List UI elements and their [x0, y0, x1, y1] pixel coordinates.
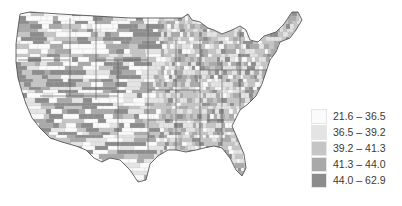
county-cell — [167, 32, 171, 37]
county-cell — [174, 10, 177, 13]
county-cell — [14, 159, 21, 163]
county-cell — [92, 24, 101, 29]
county-cell — [206, 90, 209, 93]
county-cell — [293, 135, 296, 138]
county-cell — [238, 54, 241, 57]
county-cell — [298, 154, 302, 159]
county-cell — [95, 21, 111, 24]
county-cell — [278, 32, 283, 37]
county-cell — [177, 66, 180, 70]
county-cell — [167, 16, 171, 21]
county-cell — [204, 70, 208, 75]
county-cell — [143, 119, 156, 123]
county-cell — [234, 150, 238, 154]
county-cell — [232, 180, 237, 184]
county-cell — [278, 16, 283, 21]
county-cell — [303, 175, 308, 180]
county-cell — [218, 75, 222, 79]
county-cell — [294, 128, 297, 132]
county-cell — [256, 135, 261, 138]
legend-label: 21.6 – 36.5 — [333, 110, 386, 122]
county-cell — [208, 49, 212, 54]
county-cell — [270, 10, 274, 13]
county-cell — [158, 21, 161, 24]
county-cell — [127, 82, 141, 87]
county-cell — [34, 142, 46, 146]
county-cell — [138, 44, 148, 49]
county-cell — [276, 154, 280, 159]
county-cell — [169, 150, 172, 154]
county-cell — [229, 37, 233, 41]
county-cell — [240, 98, 245, 103]
county-cell — [117, 29, 129, 32]
county-cell — [134, 10, 145, 13]
county-cell — [119, 168, 133, 171]
county-cell — [211, 82, 216, 87]
county-cell — [194, 154, 198, 159]
county-cell — [177, 163, 181, 168]
county-cell — [109, 13, 116, 16]
county-cell — [72, 98, 83, 103]
county-cell — [249, 146, 254, 150]
county-cell — [169, 75, 172, 79]
county-cell — [301, 70, 304, 75]
county-cell — [223, 41, 227, 44]
county-cell — [290, 135, 293, 138]
county-cell — [185, 21, 188, 24]
county-cell — [194, 184, 198, 189]
county-cell — [229, 128, 232, 132]
county-cell — [225, 10, 228, 13]
county-cell — [218, 16, 222, 21]
county-cell — [234, 29, 238, 32]
county-cell — [74, 16, 80, 21]
county-cell — [85, 109, 91, 114]
county-cell — [39, 123, 53, 128]
county-cell — [29, 171, 37, 175]
county-cell — [105, 32, 111, 37]
county-cell — [138, 24, 146, 29]
county-cell — [135, 103, 145, 106]
county-cell — [156, 163, 159, 168]
county-cell — [247, 79, 251, 82]
county-cell — [276, 87, 279, 90]
county-cell — [280, 175, 285, 180]
county-cell — [184, 184, 188, 189]
county-cell — [86, 70, 94, 75]
county-cell — [14, 163, 28, 168]
county-cell — [166, 21, 170, 24]
county-cell — [200, 82, 203, 87]
county-cell — [176, 103, 181, 106]
county-cell — [146, 138, 156, 142]
county-cell — [211, 180, 215, 184]
county-cell — [253, 24, 258, 29]
county-cell — [87, 29, 93, 32]
county-cell — [261, 87, 266, 90]
county-cell — [190, 13, 193, 16]
county-cell — [29, 44, 38, 49]
county-cell — [262, 24, 266, 29]
county-cell — [150, 93, 156, 98]
county-cell — [164, 82, 167, 87]
county-cell — [89, 79, 101, 82]
county-cell — [184, 62, 188, 66]
county-cell — [170, 184, 173, 189]
county-cell — [93, 87, 104, 90]
county-cell — [130, 41, 142, 44]
county-cell — [291, 150, 294, 154]
county-cell — [230, 57, 235, 62]
county-cell — [283, 180, 287, 184]
county-cell — [276, 184, 281, 189]
county-cell — [295, 54, 299, 57]
county-cell — [271, 184, 276, 189]
county-cell — [302, 114, 306, 119]
county-cell — [267, 82, 272, 87]
county-cell — [216, 106, 221, 109]
county-cell — [176, 106, 179, 109]
county-cell — [180, 66, 184, 70]
county-cell — [292, 16, 296, 21]
county-cell — [231, 49, 236, 54]
county-cell — [198, 150, 203, 154]
county-cell — [298, 146, 301, 150]
county-cell — [303, 79, 307, 82]
county-cell — [225, 114, 229, 119]
